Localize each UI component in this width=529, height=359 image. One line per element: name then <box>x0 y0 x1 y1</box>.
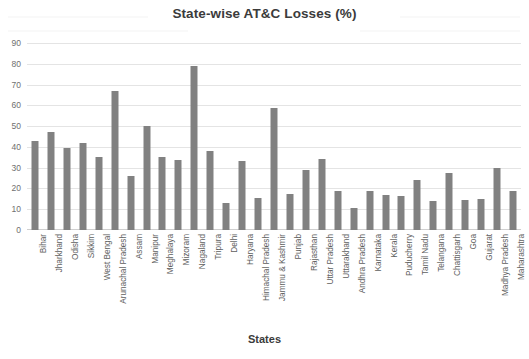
bar-slot <box>394 43 410 230</box>
x-label-slot: Goa <box>457 232 473 328</box>
x-label-slot: West Bengal <box>91 232 107 328</box>
x-label-slot: Odisha <box>59 232 75 328</box>
y-axis-tick-label: 70 <box>12 80 21 90</box>
x-label-slot: Tamil Nadu <box>409 232 425 328</box>
bar[interactable] <box>159 157 166 230</box>
bar-slot <box>123 43 139 230</box>
x-label-slot: Mizoram <box>170 232 186 328</box>
bar[interactable] <box>286 194 293 230</box>
bar-slot <box>43 43 59 230</box>
bar[interactable] <box>127 176 134 230</box>
x-label-slot: Telangana <box>425 232 441 328</box>
bar-slot <box>139 43 155 230</box>
bar[interactable] <box>318 159 325 230</box>
bar[interactable] <box>414 180 421 230</box>
bar[interactable] <box>63 148 70 230</box>
y-axis-tick-label: 80 <box>12 59 21 69</box>
bar[interactable] <box>143 126 150 230</box>
y-axis-tick-label: 30 <box>12 163 21 173</box>
x-label-slot: Chattisgarh <box>441 232 457 328</box>
x-label-slot: Madhya Pradesh <box>489 232 505 328</box>
bar[interactable] <box>510 191 517 230</box>
bar[interactable] <box>446 173 453 230</box>
x-label-slot: Gujarat <box>473 232 489 328</box>
bar-slot <box>505 43 521 230</box>
x-label-slot: Punjab <box>282 232 298 328</box>
x-label-slot: Himachal Pradesh <box>250 232 266 328</box>
y-axis-tick-labels: 0102030405060708090 <box>0 43 25 230</box>
bar-slot <box>27 43 43 230</box>
x-label-slot: Puducherry <box>394 232 410 328</box>
bar-slot <box>107 43 123 230</box>
x-axis-tick-label: Maharashtra <box>516 234 526 280</box>
x-label-slot: Jharkhand <box>43 232 59 328</box>
bar-slot <box>314 43 330 230</box>
bar[interactable] <box>398 196 405 230</box>
bar[interactable] <box>478 199 485 230</box>
chart-container: State-wise AT&C Losses (%) 0102030405060… <box>0 0 529 359</box>
bar[interactable] <box>302 170 309 230</box>
bar-slot <box>346 43 362 230</box>
y-axis-tick-label: 20 <box>12 183 21 193</box>
bar-slot <box>425 43 441 230</box>
plot-area <box>27 43 521 230</box>
bar[interactable] <box>191 66 198 230</box>
bar-slot <box>457 43 473 230</box>
bar[interactable] <box>47 132 54 230</box>
x-label-slot: Uttar Pradesh <box>314 232 330 328</box>
y-axis-tick-label: 0 <box>16 225 21 235</box>
x-axis-tick-labels: BiharJharkhandOdishaSikkimWest BengalAru… <box>27 232 521 328</box>
x-label-slot: Kerala <box>378 232 394 328</box>
bar[interactable] <box>382 195 389 230</box>
x-label-slot: Rajasthan <box>298 232 314 328</box>
bar[interactable] <box>111 91 118 230</box>
bar[interactable] <box>462 200 469 230</box>
x-label-slot: Delhi <box>218 232 234 328</box>
bar[interactable] <box>366 191 373 230</box>
bar[interactable] <box>95 157 102 230</box>
x-label-slot: Andhra Pradesh <box>346 232 362 328</box>
x-label-slot: Maharashtra <box>505 232 521 328</box>
bar[interactable] <box>430 201 437 230</box>
x-label-slot: Arunachal Pradesh <box>107 232 123 328</box>
x-label-slot: Nagaland <box>186 232 202 328</box>
bar[interactable] <box>270 108 277 230</box>
bar-slot <box>441 43 457 230</box>
x-label-slot: Tripura <box>202 232 218 328</box>
x-label-slot: Manipur <box>139 232 155 328</box>
bar-slot <box>266 43 282 230</box>
bar-slot <box>186 43 202 230</box>
bar-slot <box>170 43 186 230</box>
y-axis-tick-label: 40 <box>12 142 21 152</box>
bar-slot <box>473 43 489 230</box>
bar[interactable] <box>175 160 182 230</box>
bar-slot <box>330 43 346 230</box>
y-axis-tick-label: 90 <box>12 38 21 48</box>
bar[interactable] <box>334 191 341 230</box>
bar-slot <box>250 43 266 230</box>
bar-slot <box>75 43 91 230</box>
x-label-slot: Karnataka <box>362 232 378 328</box>
bar[interactable] <box>31 141 38 230</box>
bar[interactable] <box>350 208 357 230</box>
bar-slot <box>59 43 75 230</box>
bar[interactable] <box>255 198 262 230</box>
bar-slot <box>298 43 314 230</box>
bar[interactable] <box>239 161 246 230</box>
bar[interactable] <box>223 203 230 230</box>
bar[interactable] <box>79 143 86 230</box>
chart-title: State-wise AT&C Losses (%) <box>0 6 529 21</box>
y-axis-tick-label: 60 <box>12 100 21 110</box>
x-label-slot: Jammu & Kashmir <box>266 232 282 328</box>
x-label-slot: Haryana <box>234 232 250 328</box>
y-axis-tick-label: 50 <box>12 121 21 131</box>
x-label-slot: Assam <box>123 232 139 328</box>
bar[interactable] <box>494 168 501 230</box>
y-axis-tick-label: 10 <box>12 204 21 214</box>
x-label-slot: Uttarakhand <box>330 232 346 328</box>
x-label-slot: Meghalaya <box>154 232 170 328</box>
bar[interactable] <box>207 151 214 230</box>
bar-slot <box>362 43 378 230</box>
x-label-slot: Sikkim <box>75 232 91 328</box>
bar-slot <box>218 43 234 230</box>
